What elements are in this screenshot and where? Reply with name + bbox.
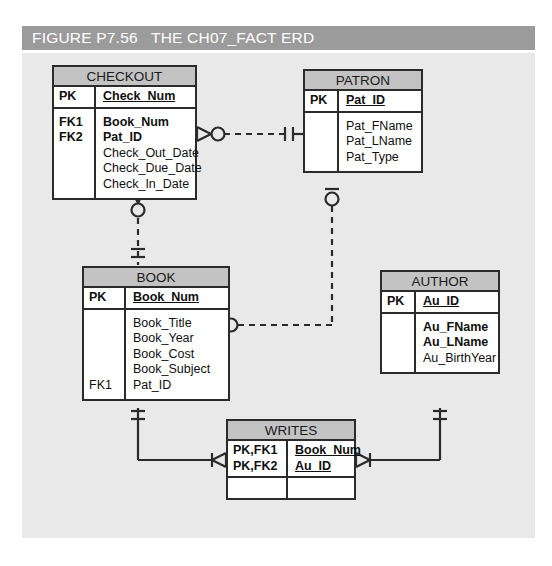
entity-writes-title: WRITES (228, 421, 354, 441)
entity-book-key-4 (89, 362, 120, 378)
entity-author-key-0: PK (387, 294, 410, 310)
relationship-author-writes (356, 408, 447, 467)
entity-checkout-attr-2: Pat_ID (103, 130, 202, 146)
entity-patron-key-1 (310, 119, 333, 135)
figure-root: FIGURE P7.56 THE CH07_FACT ERD (0, 0, 552, 566)
entity-checkout-attr-0: Check_Num (103, 89, 191, 105)
entity-book-section-attrs: FK1 Book_Title Book_Year Book_Cost Book_… (84, 308, 228, 400)
entity-book-attr-5: Pat_ID (133, 378, 224, 394)
entity-author-title: AUTHOR (382, 272, 498, 292)
entity-book-attr-1: Book_Title (133, 316, 224, 332)
entity-checkout-key-0: PK (59, 89, 90, 105)
entity-checkout-key-3 (59, 146, 90, 162)
entity-author-attr-1: Au_FName (423, 320, 496, 336)
entity-author-section-pk: PK Au_ID (382, 292, 498, 312)
entity-author-section-attrs: Au_FName Au_LName Au_BirthYear (382, 312, 498, 373)
entity-writes-section-empty (228, 476, 354, 498)
entity-checkout-section-pk: PK Check_Num (54, 87, 195, 107)
entity-checkout-key-4 (59, 161, 90, 177)
entity-patron-section-attrs: Pat_FName Pat_LName Pat_Type (305, 111, 421, 172)
relationship-checkout-book (131, 189, 145, 265)
entity-writes-attr-0: Book_Num (295, 443, 361, 459)
relationship-checkout-patron (197, 127, 303, 141)
entity-book-key-3 (89, 347, 120, 363)
entity-book-attr-0: Book_Num (133, 290, 224, 306)
figure-title-banner: FIGURE P7.56 THE CH07_FACT ERD (22, 26, 535, 50)
entity-author-attr-0: Au_ID (423, 294, 494, 310)
entity-patron-section-pk: PK Pat_ID (305, 91, 421, 111)
entity-book[interactable]: BOOK PK Book_Num FK1 Book_Ti (82, 266, 230, 401)
entity-patron-attr-1: Pat_FName (346, 119, 417, 135)
entity-writes-section-pk: PK,FK1 PK,FK2 Book_Num Au_ID (228, 441, 354, 476)
entity-book-title: BOOK (84, 268, 228, 288)
entity-writes-key-0: PK,FK1 (233, 443, 282, 459)
entity-patron-key-2 (310, 134, 333, 150)
entity-book-key-5: FK1 (89, 378, 120, 394)
entity-checkout-section-attrs: FK1 FK2 Book_Num Pat_ID Check_Out_Date C… (54, 107, 195, 199)
entity-book-key-1 (89, 316, 120, 332)
erd-diagram-canvas: CHECKOUT PK Check_Num FK1 FK2 (22, 53, 535, 538)
entity-checkout-key-1: FK1 (59, 115, 90, 131)
entity-patron-attr-3: Pat_Type (346, 150, 417, 166)
entity-checkout-attr-1: Book_Num (103, 115, 202, 131)
entity-checkout-attr-4: Check_Due_Date (103, 161, 202, 177)
entity-book-key-2 (89, 331, 120, 347)
entity-checkout-key-5 (59, 177, 90, 193)
entity-writes[interactable]: WRITES PK,FK1 PK,FK2 Book_Num Au_ID (226, 419, 356, 500)
figure-title-text: FIGURE P7.56 THE CH07_FACT ERD (22, 29, 314, 47)
entity-book-attr-3: Book_Cost (133, 347, 224, 363)
entity-book-attr-4: Book_Subject (133, 362, 224, 378)
entity-patron-title: PATRON (305, 71, 421, 91)
entity-writes-key-empty (233, 480, 282, 496)
entity-checkout-key-2: FK2 (59, 130, 90, 146)
entity-author-attr-3: Au_BirthYear (423, 351, 496, 367)
entity-checkout[interactable]: CHECKOUT PK Check_Num FK1 FK2 (52, 65, 197, 200)
entity-checkout-title: CHECKOUT (54, 67, 195, 87)
entity-patron-attr-2: Pat_LName (346, 134, 417, 150)
entity-book-key-0: PK (89, 290, 120, 306)
entity-checkout-attr-5: Check_In_Date (103, 177, 202, 193)
relationship-book-writes (131, 408, 226, 467)
entity-author-key-2 (387, 335, 410, 351)
entity-writes-attr-1: Au_ID (295, 459, 361, 475)
entity-author-attr-2: Au_LName (423, 335, 496, 351)
entity-writes-attr-empty (295, 480, 350, 496)
entity-writes-key-1: PK,FK2 (233, 459, 282, 475)
entity-patron-key-0: PK (310, 93, 333, 109)
entity-author-key-3 (387, 351, 410, 367)
entity-patron-key-3 (310, 150, 333, 166)
entity-book-section-pk: PK Book_Num (84, 288, 228, 308)
entity-book-attr-2: Book_Year (133, 331, 224, 347)
entity-patron-attr-0: Pat_ID (346, 93, 417, 109)
entity-checkout-attr-3: Check_Out_Date (103, 146, 202, 162)
entity-author-key-1 (387, 320, 410, 336)
entity-patron[interactable]: PATRON PK Pat_ID Pat_FName Pat_LName (303, 69, 423, 173)
entity-author[interactable]: AUTHOR PK Au_ID Au_FName Au_LName (380, 270, 500, 374)
